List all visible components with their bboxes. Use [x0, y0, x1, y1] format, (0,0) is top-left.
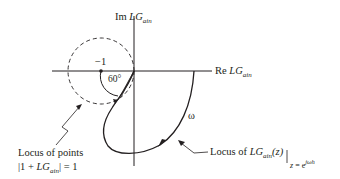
eval-exp: jωh: [305, 158, 315, 165]
real-sub: ain: [243, 71, 252, 79]
direction-arrow-icon: [158, 139, 166, 147]
imag-prefix: Im: [115, 11, 127, 22]
critical-point-label: −1: [95, 57, 106, 68]
omega-label: ω: [188, 111, 195, 122]
imag-sub: ain: [143, 17, 152, 25]
real-prefix: Re: [215, 65, 227, 76]
circle-eq-sub: ain: [50, 167, 59, 175]
imag-main: LG: [129, 11, 142, 22]
curve-locus-label: Locus of LGain(z): [210, 147, 283, 158]
curve-prefix: Locus of: [210, 146, 250, 157]
curve-eval-label: z = ejωh: [290, 162, 315, 170]
circle-eq-a: |1 +: [18, 161, 37, 172]
circle-leader-line: [56, 106, 80, 145]
circle-locus-label-line2: |1 + LGain| = 1: [18, 162, 77, 173]
eval-eq: = e: [293, 161, 305, 170]
curve-sub: ain: [263, 152, 272, 160]
imag-axis-label: Im LGain: [115, 12, 152, 23]
circle-eq-main: LG: [37, 161, 50, 172]
curve-arg: (z): [272, 146, 283, 157]
circle-eq-b: | = 1: [59, 161, 78, 172]
circle-locus-label-line1: Locus of points: [18, 148, 83, 159]
real-main: LG: [229, 65, 242, 76]
curve-main: LG: [250, 146, 263, 157]
real-axis-label: Re LGain: [215, 66, 252, 77]
angle-label: 60°: [108, 75, 121, 85]
curve-leader-line: [181, 143, 208, 153]
